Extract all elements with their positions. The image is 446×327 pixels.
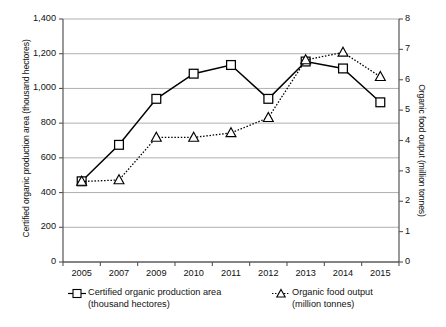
series-line (82, 52, 381, 181)
legend-label-production-area: Certified organic production area (68, 287, 221, 299)
legend-sublabel-production-area: (thousand hectores) (68, 299, 221, 311)
data-point-square-marker (376, 98, 385, 107)
data-point-square-marker (264, 94, 273, 103)
data-point-triangle-marker (375, 72, 385, 81)
data-point-square-marker (339, 64, 348, 73)
plot-area (0, 0, 446, 327)
data-point-triangle-marker (338, 47, 348, 56)
data-point-square-marker (115, 140, 124, 149)
data-point-square-marker (227, 61, 236, 70)
legend-item-production-area: Certified organic production area (thous… (68, 287, 221, 310)
legend-item-food-output: Organic food output (million tonnes) (272, 287, 373, 310)
legend-sublabel-food-output: (million tonnes) (272, 299, 373, 311)
axis-tick-marks (59, 19, 403, 266)
data-point-triangle-marker (151, 132, 161, 141)
data-point-triangle-marker (263, 113, 273, 122)
chart-container: Certified organic production area (thous… (0, 0, 446, 327)
axis-lines (63, 19, 399, 262)
data-point-square-marker (189, 69, 198, 78)
data-point-triangle-marker (226, 128, 236, 137)
square-marker-icon (68, 288, 86, 299)
gridlines (63, 19, 399, 262)
data-series-layer (77, 47, 386, 185)
series-line (82, 62, 381, 182)
data-point-square-marker (152, 94, 161, 103)
triangle-marker-icon (272, 288, 290, 299)
